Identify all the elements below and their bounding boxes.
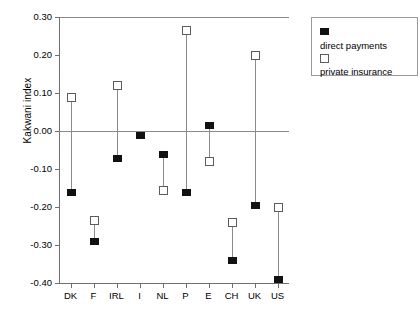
data-point-direct-payments — [228, 257, 237, 264]
y-tick-label: -0.20 — [18, 202, 52, 212]
y-tick-mark — [55, 207, 59, 208]
zero-reference-line — [59, 131, 289, 132]
legend-label-private-insurance: private insurance — [320, 66, 392, 77]
range-connector-line — [163, 154, 164, 190]
range-connector-line — [186, 30, 187, 192]
legend-label-direct-payments: direct payments — [320, 40, 387, 51]
data-point-private-insurance — [113, 81, 122, 90]
y-tick-label: -0.40 — [18, 278, 52, 288]
data-point-private-insurance — [274, 203, 283, 212]
x-tick-label: US — [261, 291, 295, 301]
y-tick-label: 0.20 — [18, 50, 52, 60]
y-tick-mark — [55, 17, 59, 18]
x-tick-mark — [232, 284, 233, 288]
x-tick-mark — [186, 284, 187, 288]
data-point-direct-payments — [251, 202, 260, 209]
x-tick-mark — [255, 284, 256, 288]
x-tick-mark — [140, 284, 141, 288]
y-tick-label: -0.30 — [18, 240, 52, 250]
x-tick-mark — [94, 284, 95, 288]
data-point-private-insurance — [205, 157, 214, 166]
y-tick-label: 0.10 — [18, 88, 52, 98]
range-connector-line — [278, 207, 279, 279]
y-tick-label: -0.10 — [18, 164, 52, 174]
range-connector-line — [117, 85, 118, 157]
legend-swatch-direct-payments — [320, 28, 329, 35]
y-tick-mark — [55, 55, 59, 56]
range-connector-line — [232, 222, 233, 260]
data-point-direct-payments — [205, 122, 214, 129]
data-point-direct-payments — [113, 155, 122, 162]
legend-swatch-private-insurance — [320, 54, 329, 63]
data-point-private-insurance — [159, 186, 168, 195]
data-point-direct-payments — [67, 189, 76, 196]
x-tick-mark — [117, 284, 118, 288]
data-point-direct-payments — [90, 238, 99, 245]
y-tick-mark — [55, 93, 59, 94]
x-tick-mark — [209, 284, 210, 288]
data-point-direct-payments — [159, 151, 168, 158]
data-point-private-insurance — [182, 26, 191, 35]
data-point-direct-payments — [136, 132, 145, 139]
chart-figure: Kakwani index 0.300.200.100.00-0.10-0.20… — [0, 0, 420, 317]
data-point-direct-payments — [182, 189, 191, 196]
x-tick-mark — [163, 284, 164, 288]
x-tick-mark — [278, 284, 279, 288]
chart-legend: direct payments private insurance — [311, 17, 418, 76]
data-point-private-insurance — [90, 216, 99, 225]
data-point-private-insurance — [228, 218, 237, 227]
y-tick-label: 0.30 — [18, 12, 52, 22]
y-tick-mark — [55, 169, 59, 170]
y-axis-title: Kakwani index — [22, 51, 33, 171]
x-tick-mark — [71, 284, 72, 288]
data-point-private-insurance — [251, 51, 260, 60]
range-connector-line — [71, 97, 72, 192]
y-tick-label: 0.00 — [18, 126, 52, 136]
data-point-direct-payments — [274, 276, 283, 283]
y-tick-mark — [55, 245, 59, 246]
data-point-private-insurance — [67, 93, 76, 102]
y-tick-mark — [55, 283, 59, 284]
